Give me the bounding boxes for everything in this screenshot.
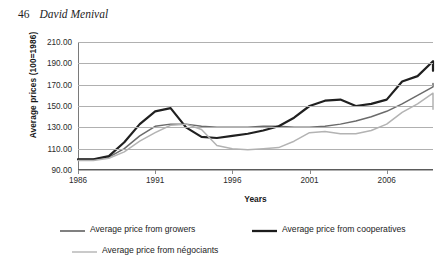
author-name: David Menival — [40, 8, 109, 20]
legend-item-negociants[interactable]: Average price from négociants — [72, 241, 218, 259]
x-axis-tick-mark — [387, 170, 388, 174]
gridline — [78, 170, 433, 171]
x-axis-tick-label: 1986 — [69, 176, 87, 185]
y-axis-tick-label: 210.00 — [47, 38, 72, 47]
gridline — [78, 106, 433, 107]
gridline — [78, 42, 433, 43]
y-axis-tick-label: 150.00 — [47, 102, 72, 111]
x-axis-tick-label: 1991 — [146, 176, 164, 185]
x-axis-tick-mark — [78, 170, 79, 174]
x-axis-title: Years — [78, 194, 433, 204]
x-axis-tick-label: 2001 — [300, 176, 318, 185]
legend-label-negociants: Average price from négociants — [102, 245, 218, 255]
gridline — [78, 149, 433, 150]
y-axis-tick-labels: 210.00190.00170.00150.00130.00110.0090.0… — [26, 28, 72, 176]
gridline — [78, 127, 433, 128]
line-chart-figure: Average prices (100=1986) 210.00190.0017… — [0, 28, 443, 270]
y-axis-tick-label: 90.00 — [52, 166, 73, 175]
y-axis-tick-label: 130.00 — [47, 123, 72, 132]
y-axis-tick-label: 190.00 — [47, 59, 72, 68]
legend-label-cooperatives: Average price from cooperatives — [282, 224, 406, 234]
gridline — [78, 85, 433, 86]
series-line-1 — [78, 61, 433, 159]
legend-line-icon-negociants — [72, 241, 97, 259]
y-axis-tick-label: 110.00 — [48, 144, 72, 153]
x-axis-tick-label: 1996 — [223, 176, 241, 185]
x-axis-tick-label: 2006 — [378, 176, 396, 185]
legend-item-growers[interactable]: Average price from growers — [60, 220, 195, 238]
x-axis-tick-labels: 19861991199620012006 — [78, 174, 433, 188]
legend-line-icon-growers — [60, 220, 85, 238]
legend-item-cooperatives[interactable]: Average price from cooperatives — [252, 220, 406, 238]
x-axis-tick-mark — [155, 170, 156, 174]
plot-area — [78, 42, 433, 170]
legend-label-growers: Average price from growers — [90, 224, 195, 234]
y-axis-tick-label: 170.00 — [47, 80, 72, 89]
chart-legend: Average price from growers Average price… — [60, 220, 440, 262]
gridline — [78, 63, 433, 64]
x-axis-tick-mark — [232, 170, 233, 174]
legend-line-icon-cooperatives — [252, 220, 277, 238]
x-axis-tick-mark — [310, 170, 311, 174]
